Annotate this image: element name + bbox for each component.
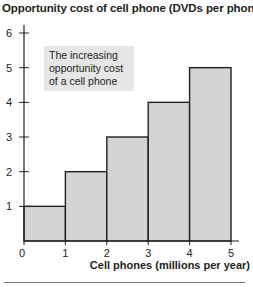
bar: [148, 102, 189, 241]
bar: [65, 172, 106, 241]
x-tick-label: 3: [145, 247, 151, 259]
bottom-rule: [4, 282, 245, 283]
bar: [107, 137, 148, 241]
y-tick-label: 4: [6, 96, 12, 108]
y-tick-label: 3: [6, 131, 12, 143]
x-tick-label: 4: [187, 247, 193, 259]
x-tick-label: 5: [228, 247, 234, 259]
x-tick-label: 0: [19, 247, 25, 259]
y-tick-label: 5: [6, 62, 12, 74]
y-tick-label: 1: [6, 200, 12, 212]
bar-chart: 123456012345: [0, 0, 253, 287]
y-tick-label: 6: [6, 27, 12, 39]
x-axis-label: Cell phones (millions per year): [90, 259, 250, 271]
bar: [190, 68, 231, 241]
x-tick-label: 2: [104, 247, 110, 259]
y-tick-label: 2: [6, 166, 12, 178]
chart-annotation: The increasing opportunity cost of a cel…: [44, 46, 134, 91]
x-tick-label: 1: [62, 247, 68, 259]
bar: [24, 206, 65, 241]
